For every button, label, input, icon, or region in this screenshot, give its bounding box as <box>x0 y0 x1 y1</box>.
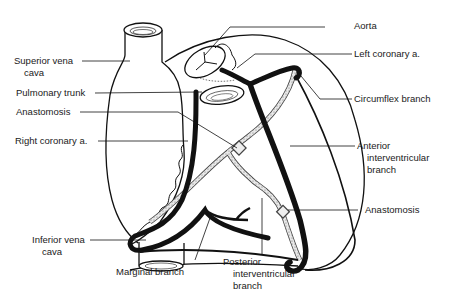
label-circumflex-branch: Circumflex branch <box>354 93 431 105</box>
label-anterior-interventricular: Anterior interventricular branch <box>357 140 429 176</box>
label-inferior-vena-cava: Inferior vena cava <box>32 234 85 258</box>
anterior-interventricular-vessel <box>250 84 306 271</box>
aorta-shape <box>179 40 235 85</box>
label-anastomosis-right: Anastomosis <box>365 204 419 216</box>
label-aorta: Aorta <box>354 20 377 32</box>
left-coronary-artery <box>222 68 299 84</box>
dotted-outline <box>200 78 235 81</box>
label-left-coronary: Left coronary a. <box>354 48 420 60</box>
label-right-coronary: Right coronary a. <box>15 135 87 147</box>
pulmonary-trunk-shape <box>199 83 245 107</box>
label-posterior-interventricular: Posterior interventricular branch <box>223 256 295 292</box>
label-superior-vena-cava: Superior vena cava <box>14 55 73 79</box>
label-pulmonary-trunk: Pulmonary trunk <box>16 87 85 99</box>
label-marginal-branch: Marginal branch <box>116 266 184 278</box>
anastomosis-node-1 <box>232 141 246 155</box>
label-anastomosis-left: Anastomosis <box>16 106 70 118</box>
